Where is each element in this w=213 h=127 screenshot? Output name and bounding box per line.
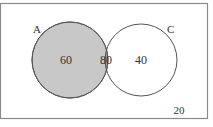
set-c-label: C (167, 23, 174, 35)
set-c-only-value: 40 (135, 53, 147, 67)
set-a-label: A (33, 23, 41, 35)
intersection-value: 80 (100, 53, 112, 67)
outside-value: 20 (174, 104, 186, 116)
venn-diagram: A C 60 80 40 20 (0, 0, 213, 127)
set-a-only-value: 60 (60, 53, 72, 67)
